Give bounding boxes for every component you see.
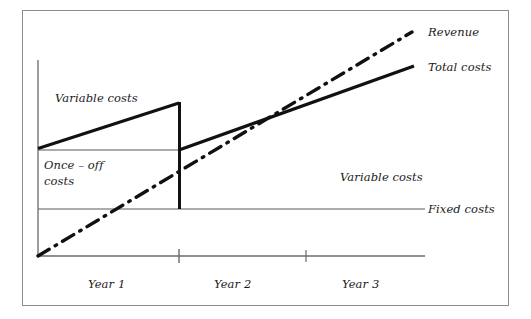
revenue-line <box>38 32 412 256</box>
label-once-off-costs: Once – off costs <box>44 158 104 189</box>
diagram-canvas: Variable costs Once – off costs Variable… <box>0 0 531 319</box>
label-revenue: Revenue <box>428 25 479 41</box>
label-variable-costs-right: Variable costs <box>340 170 423 186</box>
x-axis-label-year-1: Year 1 <box>88 277 125 293</box>
label-variable-costs-left: Variable costs <box>55 91 138 107</box>
label-total-costs: Total costs <box>428 60 491 76</box>
variable-costs-ramp-year1 <box>38 103 179 149</box>
x-axis-label-year-2: Year 2 <box>214 277 251 293</box>
total-costs-line <box>179 66 414 150</box>
x-axis-label-year-3: Year 3 <box>342 277 379 293</box>
label-fixed-costs: Fixed costs <box>428 202 495 218</box>
